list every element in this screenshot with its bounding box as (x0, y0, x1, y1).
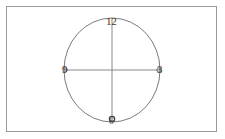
clock-label-12: 12 (106, 16, 116, 27)
clock-label-3: 3 (157, 64, 162, 75)
clock-face-figure: 12 3 9 6 (0, 0, 225, 139)
clock-label-6: 6 (109, 116, 113, 127)
clock-label-9: 9 (62, 64, 67, 75)
